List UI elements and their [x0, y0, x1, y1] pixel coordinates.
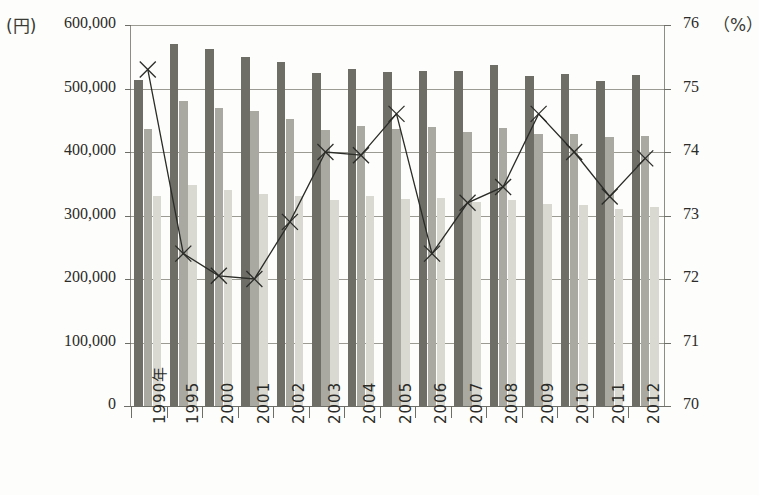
x-axis-tick — [380, 406, 381, 418]
x-axis-tick-label: 2012 — [645, 382, 663, 424]
y-axis-right-tick-label: 71 — [683, 332, 699, 350]
line-path — [148, 69, 645, 279]
x-axis-tick — [309, 406, 310, 418]
x-axis-tick — [451, 406, 452, 418]
y-axis-right-tick — [664, 406, 671, 407]
x-axis-tick — [167, 406, 168, 418]
line-marker-x — [602, 188, 618, 204]
line-marker-x — [424, 246, 440, 262]
x-axis-tick-label: 2003 — [326, 382, 344, 424]
line-series-layer — [131, 25, 664, 406]
y-axis-left-tick-label: 600,000 — [64, 14, 116, 32]
line-marker-x — [140, 61, 156, 77]
x-axis-tick-label: 1995 — [184, 382, 202, 424]
line-marker-x — [495, 179, 511, 195]
y-axis-left-tick-label: 200,000 — [64, 268, 116, 286]
line-marker-x — [460, 195, 476, 211]
x-axis-tick — [593, 406, 594, 418]
left-axis-unit-label: (円) — [6, 12, 36, 37]
chart-canvas: (円) （%） 600,00076500,00075400,00074300,0… — [0, 0, 759, 495]
x-axis-tick-label: 2006 — [432, 382, 450, 424]
y-axis-right-tick — [664, 343, 671, 344]
y-axis-right-tick — [664, 25, 671, 26]
x-axis-tick — [486, 406, 487, 418]
y-axis-right-tick-label: 74 — [683, 141, 699, 159]
x-axis-tick — [522, 406, 523, 418]
x-axis-tick-label: 2009 — [539, 382, 557, 424]
y-axis-right-tick-label: 73 — [683, 205, 699, 223]
x-axis-tick — [273, 406, 274, 418]
x-axis-tick-label: 2007 — [468, 382, 486, 424]
x-axis-tick — [238, 406, 239, 418]
y-axis-right-tick-label: 72 — [683, 268, 699, 286]
y-axis-right-tick — [664, 279, 671, 280]
x-axis-tick — [131, 406, 132, 418]
y-axis-right-tick-label: 75 — [683, 78, 699, 96]
y-axis-left-tick-label: 100,000 — [64, 332, 116, 350]
y-axis-right-tick-label: 70 — [683, 395, 699, 413]
x-axis-tick-label: 2005 — [397, 382, 415, 424]
x-axis-tick — [415, 406, 416, 418]
x-axis-tick-label: 2001 — [255, 382, 273, 424]
y-axis-right-tick — [664, 89, 671, 90]
x-axis-tick — [557, 406, 558, 418]
y-axis-left-tick-label: 500,000 — [64, 78, 116, 96]
x-axis-tick — [202, 406, 203, 418]
x-axis-tick-label: 2010 — [574, 382, 592, 424]
right-axis-unit-label: （%） — [713, 11, 759, 36]
x-axis-tick-label: 2000 — [219, 382, 237, 424]
x-axis-tick — [344, 406, 345, 418]
line-marker-x — [566, 144, 582, 160]
x-axis-tick-label: 2011 — [610, 382, 628, 424]
y-axis-left-tick-label: 0 — [108, 395, 116, 413]
line-marker-x — [389, 106, 405, 122]
y-axis-right-tick — [664, 216, 671, 217]
x-axis-tick-label: 2002 — [290, 382, 308, 424]
x-axis-tick — [628, 406, 629, 418]
line-marker-x — [282, 214, 298, 230]
line-marker-x — [531, 106, 547, 122]
y-axis-right-tick-label: 76 — [683, 14, 699, 32]
y-axis-left-tick-label: 400,000 — [64, 141, 116, 159]
x-axis-tick-label: 2004 — [361, 382, 379, 424]
y-axis-left-tick-label: 300,000 — [64, 205, 116, 223]
y-axis-right-tick — [664, 152, 671, 153]
line-marker-x — [637, 150, 653, 166]
line-marker-x — [175, 246, 191, 262]
x-axis-tick-label: 2008 — [503, 382, 521, 424]
